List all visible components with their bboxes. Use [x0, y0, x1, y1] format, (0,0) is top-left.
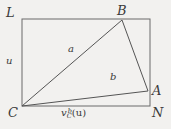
height-label-u: u: [6, 56, 12, 66]
geometry-diagram: L B A N C a b u vCb(u): [0, 0, 171, 129]
segment-label-a: a: [68, 44, 74, 54]
base-label-argument: (u): [72, 107, 86, 118]
vertex-label-C: C: [8, 106, 18, 119]
vertex-label-L: L: [6, 6, 15, 19]
segment-c-to-b: [22, 20, 122, 106]
vertex-label-A: A: [152, 84, 161, 97]
segment-label-b: b: [110, 72, 116, 82]
segment-c-to-a: [22, 91, 148, 106]
vertex-label-B: B: [117, 4, 127, 17]
base-length-label: vCb(u): [61, 108, 86, 120]
segment-b-to-a: [122, 20, 148, 91]
vertex-label-N: N: [152, 106, 163, 119]
